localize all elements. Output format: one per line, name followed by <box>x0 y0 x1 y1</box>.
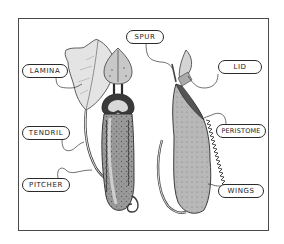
leader-spur <box>146 42 172 68</box>
label-pitcher: PITCHER <box>22 178 70 192</box>
label-spur: SPUR <box>126 30 164 44</box>
pitcher-neck <box>114 84 122 94</box>
pitcher-front-section <box>102 48 138 212</box>
label-lid: LID <box>218 60 262 74</box>
leader-tendril <box>62 140 84 151</box>
leader-pitcher <box>58 168 92 178</box>
label-peristome: PERISTOME <box>216 124 266 138</box>
label-tendril: TENDRIL <box>22 126 70 140</box>
spur <box>172 64 176 82</box>
label-wings: WINGS <box>218 184 264 198</box>
leader-lid <box>188 74 218 88</box>
leader-peristome <box>204 113 226 124</box>
label-lamina: LAMINA <box>22 64 68 78</box>
